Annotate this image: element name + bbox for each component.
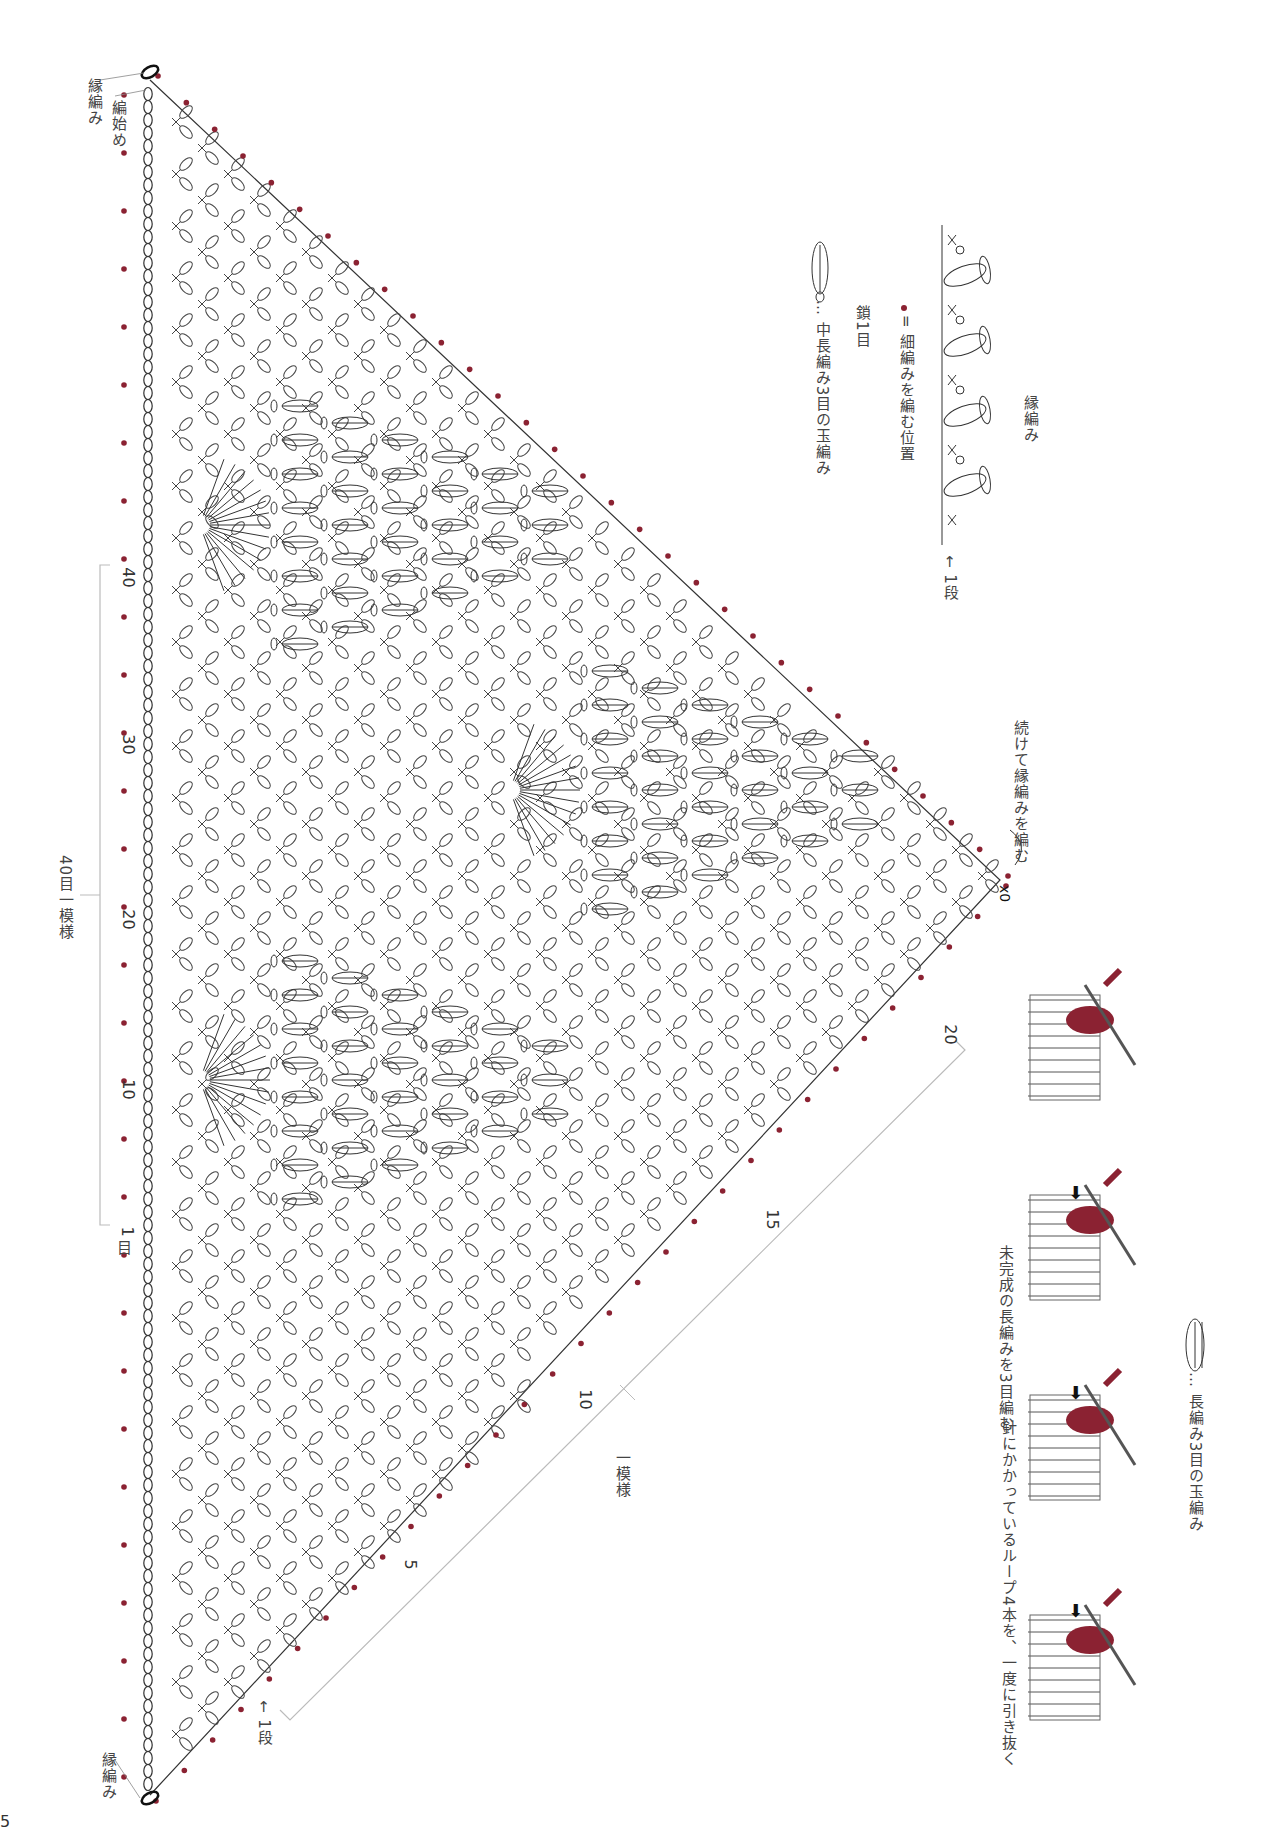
cluster-title: … 長編み3目の玉編み (1185, 1372, 1206, 1532)
row1-label: ← 1段 (254, 1700, 275, 1746)
repeat-40-bracket (100, 565, 110, 1225)
step-arrow-2: ⬇ (1068, 1382, 1083, 1403)
dot-meaning: = 細編みを編む位置 (896, 315, 917, 462)
cluster-symbol (1186, 1319, 1204, 1371)
cluster-step-1 (1028, 970, 1135, 1100)
page-number: 5 (0, 1812, 10, 1831)
step-arrow-3: ⬇ (1068, 1600, 1083, 1621)
puff-label: … 中長編み3目の玉編み (812, 300, 833, 476)
edging-title: 縁編み (1020, 395, 1041, 443)
row-num-15: 15 (763, 1209, 782, 1229)
svg-text:x0: x0 (997, 885, 1013, 902)
row-num-20: 20 (941, 1024, 960, 1044)
foundation-unit: 目 (113, 1240, 134, 1256)
repeat-40-label: 40目一模様 (55, 855, 76, 940)
edging-sample (941, 225, 992, 545)
foundation-num-20: 20 (119, 909, 138, 929)
continue-label: 続けて縁編みを編む (1010, 720, 1031, 864)
row-num-5: 5 (401, 1559, 420, 1569)
start-label: 編始め (108, 100, 129, 148)
foundation-num-1: 1 (118, 1226, 137, 1236)
step2-caption: 未完成の長編みを3目編む (995, 1245, 1016, 1375)
chain-label: 鎖1目 (852, 305, 873, 348)
step-arrow-1: ⬇ (1068, 1182, 1083, 1203)
edge-label-top: 縁編み (84, 78, 105, 126)
step3-caption: 針にかかっているループ4本を、一度に引き抜く (998, 1420, 1019, 1590)
edging-row-label: ← 1段 (940, 555, 961, 601)
crochet-chart: x0 (0, 0, 1278, 1832)
edge-label-bottom: 縁編み (98, 1752, 119, 1800)
foundation-num-40: 40 (119, 567, 138, 587)
repeat-label: 一模様 (612, 1450, 633, 1498)
foundation-num-10: 10 (119, 1079, 138, 1099)
puff-symbol (812, 242, 828, 302)
row-num-10: 10 (576, 1389, 595, 1409)
foundation-num-30: 30 (119, 734, 138, 754)
repeat-bracket (280, 1040, 965, 1720)
